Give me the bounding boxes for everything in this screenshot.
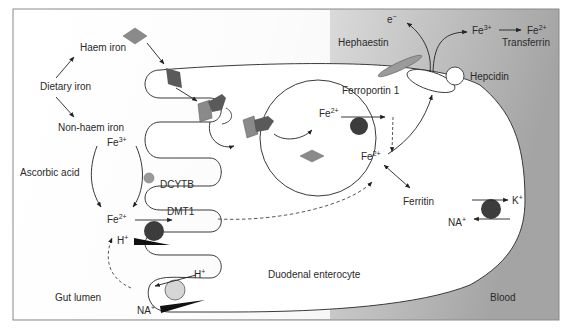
duodenal-enterocyte-label: Duodenal enterocyte [268,269,361,280]
gut-lumen-label: Gut lumen [55,292,101,303]
hepcidin-shape [446,67,464,85]
ferroportin-label: Ferroportin 1 [342,85,400,96]
haem-iron-label: Haem iron [80,42,126,53]
hephaestin-label: Hephaestin [338,37,389,48]
non-haem-iron-label: Non-haem iron [58,122,124,133]
dmt1-label: DMT1 [167,206,195,217]
iron-absorption-diagram: Fe2+ Fe2+ Ferritin e− Fe3+ Fe2+ Transfer… [0,0,572,332]
na-k-pump-ball [481,199,501,219]
dmt1-ball [144,221,164,241]
vesicle-transporter-ball [350,117,368,135]
dcytb-label: DCYTB [160,179,194,190]
na-h-exchanger-ball [165,280,185,300]
dietary-iron-label: Dietary iron [40,81,91,92]
dcytb-ball [144,173,154,183]
transferrin-label: Transferrin [502,37,550,48]
ferritin-label: Ferritin [403,196,434,207]
blood-label: Blood [490,292,516,303]
ascorbic-acid-label: Ascorbic acid [20,167,79,178]
hepcidin-label: Hepcidin [470,71,509,82]
